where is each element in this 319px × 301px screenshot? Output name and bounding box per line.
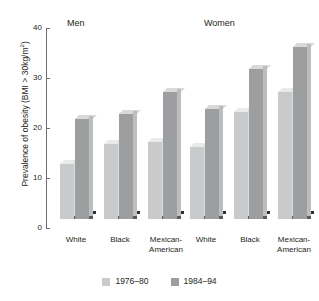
bar-men-white-1976-80 <box>60 164 74 219</box>
plot-area: Men Women <box>47 18 319 229</box>
legend-item-1976-80[interactable]: 1976–80 <box>102 277 148 286</box>
legend-label-1976-80: 1976–80 <box>115 277 148 286</box>
bar-men-black-1976-80 <box>104 144 118 219</box>
cat-label-women-white: White <box>186 235 226 245</box>
panel-title-men: Men <box>67 18 85 28</box>
legend-label-1984-94: 1984–94 <box>184 277 217 286</box>
bar-women-black-1984-94 <box>249 69 263 219</box>
bar-men-black-1984-94 <box>119 114 133 219</box>
cat-label-women-black: Black <box>230 235 270 245</box>
cat-label-women-mexican-american-line1: Mexican- <box>278 235 310 244</box>
y-axis-title: Prevalence of obesity (BMI > 30kg/m2) <box>18 14 30 214</box>
legend-item-1984-94[interactable]: 1984–94 <box>171 277 217 286</box>
cat-label-women-mexican-american-line2: American <box>277 245 311 254</box>
bar-cluster-women-mexican-american <box>278 37 314 219</box>
panel-title-women: Women <box>204 18 235 28</box>
bar-women-mexican-american-1984-94 <box>293 47 307 219</box>
bar-women-white-1976-80 <box>190 147 204 219</box>
bar-cluster-men-white <box>60 109 96 219</box>
cat-label-men-black: Black <box>100 235 140 245</box>
cat-label-women-mexican-american: Mexican- American <box>268 235 319 254</box>
cat-label-men-mexican-american-line1: Mexican- <box>150 235 182 244</box>
bar-cluster-women-white <box>190 99 226 219</box>
bar-men-mexican-american-1984-94 <box>163 92 177 219</box>
legend-swatch-1976-80 <box>102 278 110 286</box>
bar-cluster-men-black <box>104 104 140 219</box>
legend-swatch-1984-94 <box>171 278 179 286</box>
bar-men-white-1984-94 <box>75 119 89 219</box>
cat-label-men-mexican-american-line2: American <box>149 245 183 254</box>
bar-women-black-1976-80 <box>234 112 248 219</box>
y-axis-title-exponent: 2 <box>19 44 25 47</box>
obesity-prevalence-bar-chart: 40 30 20 10 0 Prevalence of obesity (BMI… <box>0 0 319 301</box>
chart-legend: 1976–80 1984–94 <box>0 277 319 286</box>
bar-women-white-1984-94 <box>205 109 219 219</box>
cat-label-men-white: White <box>56 235 96 245</box>
y-axis-title-close: ) <box>20 41 30 44</box>
bar-cluster-men-mexican-american <box>148 82 184 219</box>
cat-label-men-mexican-american: Mexican- American <box>140 235 192 254</box>
bar-men-mexican-american-1976-80 <box>148 142 162 219</box>
y-axis-title-text: Prevalence of obesity (BMI > 30kg/m <box>20 47 30 186</box>
y-tick-label-0: 0 <box>24 224 42 232</box>
bar-women-mexican-american-1976-80 <box>278 92 292 219</box>
bar-cluster-women-black <box>234 59 270 219</box>
